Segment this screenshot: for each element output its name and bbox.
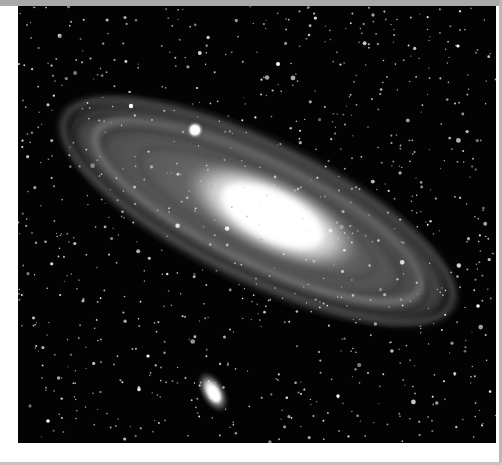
m110-satellite [190, 365, 237, 420]
galaxy-disk [18, 36, 496, 386]
galaxy-photo [18, 6, 496, 443]
galaxy-render [18, 6, 496, 443]
